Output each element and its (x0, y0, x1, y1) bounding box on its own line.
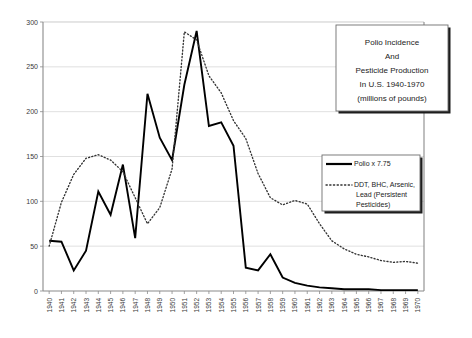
title-line-3: In U.S. 1940-1970 (360, 80, 425, 89)
x-tick-label-1942: 1942 (70, 298, 77, 313)
x-tick-label-1949: 1949 (156, 298, 163, 313)
x-tick-label-1950: 1950 (169, 298, 176, 313)
x-tick-label-1962: 1962 (316, 298, 323, 313)
y-tick-label-300: 300 (26, 19, 38, 26)
x-tick-label-1946: 1946 (119, 298, 126, 313)
legend-label-2: Lead (Persistent (356, 191, 407, 199)
x-tick-label-1965: 1965 (353, 298, 360, 313)
title-line-4: (millions of pounds) (357, 94, 427, 103)
y-tick-label-0: 0 (34, 288, 38, 295)
legend-label-3: Pesticides) (356, 201, 390, 209)
polio-pesticide-chart: 050100150200250300 194019411942194319441… (0, 0, 472, 338)
title-line-1: And (385, 52, 399, 61)
y-tick-label-250: 250 (26, 63, 38, 70)
legend-label-1: DDT, BHC, Arsenic, (354, 181, 415, 188)
x-tick-label-1967: 1967 (377, 298, 384, 313)
chart-canvas: 050100150200250300 194019411942194319441… (0, 0, 472, 338)
title-line-0: Polio Incidence (365, 38, 420, 47)
x-tick-label-1951: 1951 (181, 298, 188, 313)
x-tick-label-1959: 1959 (279, 298, 286, 313)
x-tick-label-1947: 1947 (132, 298, 139, 313)
x-tick-label-1968: 1968 (390, 298, 397, 313)
x-tick-label-1956: 1956 (242, 298, 249, 313)
x-tick-label-1961: 1961 (304, 298, 311, 313)
x-tick-label-1969: 1969 (402, 298, 409, 313)
x-tick-label-1944: 1944 (95, 298, 102, 313)
x-tick-label-1948: 1948 (144, 298, 151, 313)
x-tick-label-1941: 1941 (58, 298, 65, 313)
x-tick-label-1940: 1940 (46, 298, 53, 313)
x-tick-label-1953: 1953 (205, 298, 212, 313)
legend-label-0: Polio x 7.75 (354, 160, 391, 167)
x-tick-label-1964: 1964 (341, 298, 348, 313)
x-tick-label-1955: 1955 (230, 298, 237, 313)
x-tick-label-1943: 1943 (83, 298, 90, 313)
title-line-2: Pesticide Production (356, 66, 429, 75)
x-tick-label-1958: 1958 (267, 298, 274, 313)
x-tick-label-1957: 1957 (255, 298, 262, 313)
x-tick-label-1966: 1966 (365, 298, 372, 313)
y-tick-label-200: 200 (26, 108, 38, 115)
legend-box: Polio x 7.75DDT, BHC, Arsenic,Lead (Pers… (322, 155, 423, 214)
x-tick-label-1963: 1963 (328, 298, 335, 313)
x-tick-label-1954: 1954 (218, 298, 225, 313)
x-tick-label-1970: 1970 (414, 298, 421, 313)
x-tick-label-1960: 1960 (291, 298, 298, 313)
x-tick-label-1952: 1952 (193, 298, 200, 313)
y-tick-label-50: 50 (30, 243, 38, 250)
y-tick-label-100: 100 (26, 198, 38, 205)
x-tick-label-1945: 1945 (107, 298, 114, 313)
title-box: Polio IncidenceAndPesticide ProductionIn… (336, 25, 451, 114)
y-tick-label-150: 150 (26, 153, 38, 160)
